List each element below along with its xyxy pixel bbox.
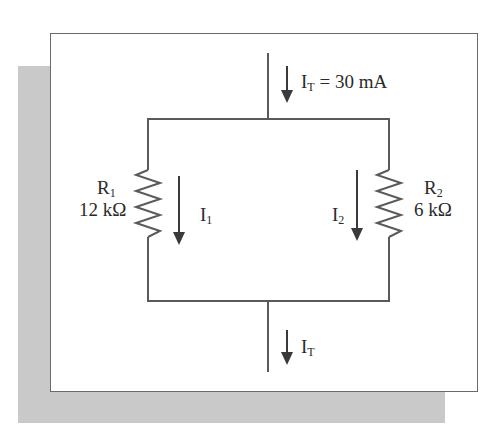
total-current-label-top: IT = 30 mA (301, 72, 387, 93)
top-rail-wire (148, 119, 389, 170)
i2-label: I2 (332, 205, 344, 226)
arrow-down-icon-i2 (351, 170, 363, 241)
resistor-r1-icon (136, 170, 160, 237)
wires (148, 53, 389, 372)
i1-label: I1 (200, 205, 212, 226)
r2-value-label: 6 kΩ (414, 200, 452, 219)
r1-value-label: 12 kΩ (79, 200, 126, 219)
r1-symbol-label: R1 (97, 178, 116, 199)
bottom-rail-wire (148, 237, 389, 301)
arrow-down-icon-total-top (281, 66, 293, 103)
arrow-down-icon-i1 (173, 176, 185, 245)
r2-symbol-label: R2 (424, 178, 443, 199)
total-current-label-bottom: IT (301, 337, 315, 358)
arrow-down-icon-total-bottom (281, 330, 293, 365)
resistor-r2-icon (377, 170, 401, 237)
